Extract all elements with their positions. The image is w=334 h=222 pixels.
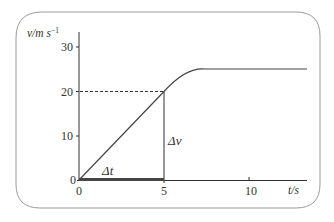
delta-t-label: Δt xyxy=(101,163,114,178)
x-tick-label-0: 0 xyxy=(76,184,82,198)
velocity-time-diagram: 30 20 10 0 0 5 10 v/m s−1 t/s Δt Δv xyxy=(0,0,334,222)
y-axis-title-exponent: −1 xyxy=(51,26,59,35)
x-tick-label-5: 5 xyxy=(161,184,167,198)
y-axis-title-text: v/m s xyxy=(27,27,51,39)
x-axis-title: t/s xyxy=(288,184,299,196)
delta-v-label: Δv xyxy=(167,133,182,148)
y-tick-label-30: 30 xyxy=(61,40,73,54)
y-tick-label-10: 10 xyxy=(61,129,73,143)
y-tick-label-20: 20 xyxy=(61,85,73,99)
y-axis-title: v/m s−1 xyxy=(27,26,59,39)
x-tick-label-10: 10 xyxy=(245,184,257,198)
